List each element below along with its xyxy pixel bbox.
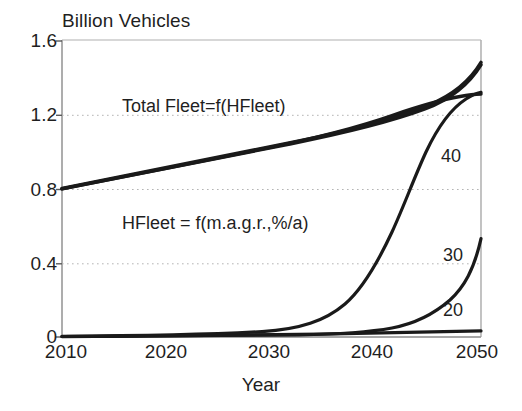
annotation-hfleet: HFleet = f(m.a.g.r.,%/a) [122,213,309,234]
x-tick-2020: 2020 [145,341,187,363]
x-axis-title: Year [0,374,522,396]
x-tick-2030: 2030 [248,341,290,363]
plot-frame [62,40,481,337]
chart-container: Billion Vehicles 1.6 1.2 0.8 0.4 0 2010 … [0,0,522,411]
y-tick-1.6: 1.6 [5,30,57,52]
curve-label-30: 30 [443,245,463,266]
annotation-total-fleet: Total Fleet=f(HFleet) [122,96,286,117]
x-tick-2010: 2010 [45,341,87,363]
x-tick-2040: 2040 [351,341,393,363]
curve-hfleet-30 [62,239,481,337]
y-tick-1.2: 1.2 [5,104,57,126]
curve-label-20: 20 [443,300,463,321]
y-tick-0.4: 0.4 [5,253,57,275]
y-tick-0.8: 0.8 [5,179,57,201]
y-axis-title: Billion Vehicles [62,10,190,32]
curve-label-40: 40 [441,146,461,167]
gridlines [62,115,481,263]
x-tick-2050: 2050 [456,341,498,363]
